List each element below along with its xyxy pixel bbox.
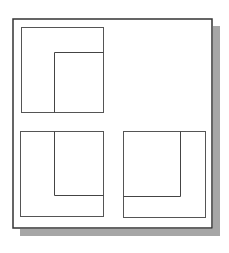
- frame: [13, 19, 212, 228]
- frame-border: [13, 19, 212, 228]
- shadow-bottom: [20, 229, 220, 236]
- projection-diagram: [0, 0, 229, 253]
- shadow-right: [213, 26, 220, 235]
